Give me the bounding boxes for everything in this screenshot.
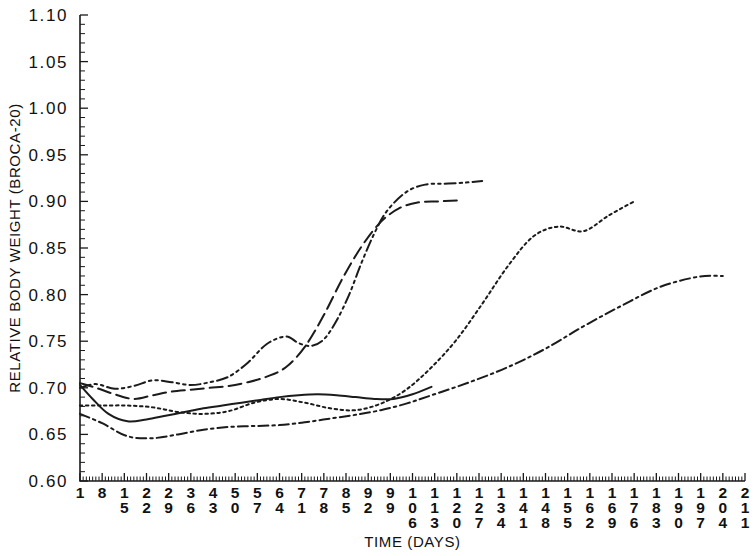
x-tick-label-digit: 8: [98, 484, 107, 501]
y-tick-label: 0.90: [29, 192, 69, 211]
series-layer: [80, 181, 723, 438]
series-line-5: [80, 385, 432, 422]
y-tick-label: 0.65: [29, 425, 69, 444]
y-tick-label: 0.95: [29, 146, 69, 165]
x-tick-label-digit: 4: [497, 514, 506, 531]
x-tick-label-digit: 8: [320, 499, 329, 516]
x-tick-label-digit: 6: [187, 499, 196, 516]
x-tick-label-digit: 1: [519, 514, 528, 531]
y-axis-title: RELATIVE BODY WEIGHT (BROCA-20): [6, 103, 23, 393]
x-tick-label-digit: 8: [541, 514, 550, 531]
x-tick-label-digit: 4: [275, 499, 284, 516]
series-line-3: [80, 201, 634, 414]
x-tick-label-digit: 9: [386, 499, 395, 516]
y-tick-label: 0.60: [29, 472, 69, 491]
x-tick-label-digit: 6: [630, 514, 639, 531]
x-tick-label-digit: 1: [297, 499, 306, 516]
y-tick-label: 0.75: [29, 332, 69, 351]
x-tick-label-digit: 6: [408, 514, 417, 531]
x-tick-label-digit: 5: [563, 514, 572, 531]
x-tick-label-digit: 3: [430, 514, 439, 531]
series-line-2: [80, 200, 457, 399]
chart-container: 0.600.650.700.750.800.850.900.951.001.05…: [0, 0, 753, 556]
x-tick-label-digit: 2: [586, 514, 595, 531]
x-tick-label-digit: 3: [209, 499, 218, 516]
y-tick-label: 0.85: [29, 239, 69, 258]
x-tick-labels: 1815222936435057647178859299106113120127…: [76, 484, 750, 531]
y-tick-label: 1.10: [29, 6, 69, 25]
x-tick-label-digit: 7: [253, 499, 262, 516]
x-tick-label-digit: 0: [453, 514, 462, 531]
x-tick-label-digit: 4: [719, 514, 728, 531]
x-axis-title: TIME (DAYS): [364, 533, 460, 550]
series-line-1: [80, 181, 482, 389]
x-tick-label-digit: 2: [364, 499, 373, 516]
ticks-layer: [80, 15, 745, 481]
x-tick-label-digit: 0: [231, 499, 240, 516]
x-tick-label-digit: 7: [475, 514, 484, 531]
x-tick-label-digit: 7: [696, 514, 705, 531]
x-tick-label-digit: 5: [342, 499, 351, 516]
x-tick-label-digit: 5: [120, 499, 129, 516]
x-tick-label-digit: 2: [142, 499, 151, 516]
y-tick-label: 1.05: [29, 53, 69, 72]
y-tick-labels: 0.600.650.700.750.800.850.900.951.001.05…: [29, 6, 69, 491]
x-tick-label-digit: 1: [76, 484, 85, 501]
x-tick-label-digit: 9: [164, 499, 173, 516]
y-tick-label: 0.70: [29, 379, 69, 398]
axis-spines: [80, 15, 745, 481]
y-tick-label: 0.80: [29, 286, 69, 305]
x-tick-label-digit: 0: [674, 514, 683, 531]
x-tick-label-digit: 3: [652, 514, 661, 531]
x-tick-label-digit: 9: [608, 514, 617, 531]
x-tick-label-digit: 1: [741, 514, 750, 531]
axis-layer: [80, 15, 745, 481]
line-chart: 0.600.650.700.750.800.850.900.951.001.05…: [0, 0, 753, 556]
y-tick-label: 1.00: [29, 99, 69, 118]
